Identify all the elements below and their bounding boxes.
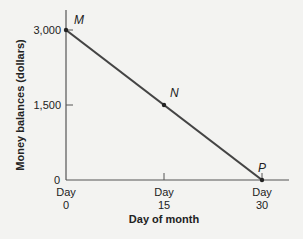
point-n-marker [162, 103, 166, 107]
y-tick-label: 1,500 [33, 99, 61, 111]
y-axis-title: Money balances (dollars) [14, 39, 26, 171]
labels: MNP [64, 13, 266, 182]
x-tick-label: 30 [256, 199, 268, 211]
chart-svg: 01,5003,000Day0Day15Day30 MNP Money bala… [0, 0, 303, 239]
point-n-label: N [170, 86, 179, 100]
y-tick-label: 3,000 [33, 24, 61, 36]
y-tick-label: 0 [54, 174, 60, 186]
x-tick-label: Day [56, 186, 76, 198]
x-axis-title: Day of month [129, 213, 200, 225]
x-tick-label: Day [252, 186, 272, 198]
x-tick-label: Day [154, 186, 174, 198]
point-p-marker [260, 178, 264, 182]
point-m-marker [64, 28, 68, 32]
axes: 01,5003,000Day0Day15Day30 [33, 10, 289, 211]
x-tick-label: 0 [63, 199, 69, 211]
money-balance-chart: 01,5003,000Day0Day15Day30 MNP Money bala… [0, 0, 303, 239]
point-m-label: M [74, 13, 84, 27]
point-p-label: P [258, 161, 266, 175]
x-tick-label: 15 [158, 199, 170, 211]
